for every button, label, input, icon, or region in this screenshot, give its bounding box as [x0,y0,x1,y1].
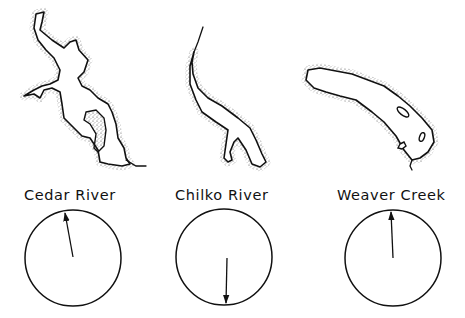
weaver-lake-map [306,68,434,170]
cedar-compass [25,210,121,306]
arrow-down-icon [226,258,227,303]
arrow-up-icon [65,213,73,257]
weaver-compass [345,210,441,306]
chilko-lake-map [190,27,266,167]
arrow-up-icon [391,212,393,258]
cedar-lake-shoreline [24,12,130,166]
label-cedar-river: Cedar River [24,187,116,203]
compass-circle [25,210,121,306]
label-chilko-river: Chilko River [175,187,269,203]
cedar-lake-map [24,12,146,166]
chilko-compass [176,209,272,305]
label-weaver-creek: Weaver Creek [337,187,446,203]
compass-circle [176,209,272,305]
figure-canvas: Cedar River Chilko River Weaver Creek [0,0,465,318]
